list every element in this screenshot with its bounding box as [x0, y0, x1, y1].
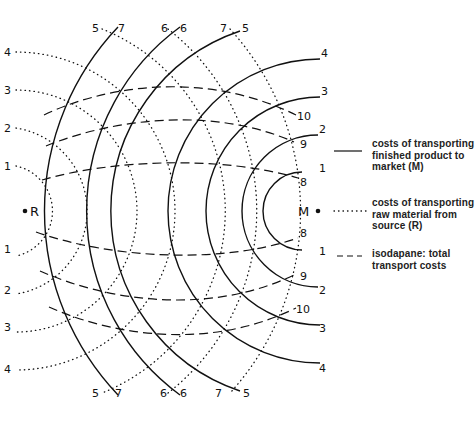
right-label-solid-bottom-2: 2	[319, 284, 326, 297]
solid-arc-1	[263, 172, 302, 250]
bottom-label-dotted-5: 5	[92, 387, 99, 400]
isodapane-9-top	[46, 120, 294, 146]
left-label-top-1: 1	[4, 160, 11, 173]
right-label-dashed-top-8: 8	[300, 176, 307, 189]
right-label-solid-bottom-4: 4	[319, 362, 326, 375]
top-label-solid-6: 6	[180, 22, 187, 35]
source-label: R	[30, 204, 39, 219]
right-label-dashed-top-10: 10	[297, 110, 311, 123]
legend-solid-text: costs of transporting finished product t…	[372, 138, 474, 173]
legend-dotted-text: costs of transporting raw material from …	[372, 197, 474, 232]
solid-arc-7	[44, 27, 118, 395]
right-label-solid-bottom-3: 3	[319, 322, 326, 335]
isodapane-10-top	[44, 87, 296, 115]
market-label: M	[298, 204, 309, 219]
isodapane-8-top	[42, 163, 298, 180]
left-label-bottom-3: 3	[4, 321, 11, 334]
source-point	[23, 209, 28, 214]
top-label-dotted-5: 5	[92, 22, 99, 35]
isodapane-10-bottom	[49, 307, 296, 335]
right-label-solid-bottom-1: 1	[319, 245, 326, 258]
isodapane-8-bottom	[36, 232, 298, 255]
legend-dashed-text: isodapane: total transport costs	[372, 248, 450, 271]
left-label-top-3: 3	[4, 84, 11, 97]
bottom-label-solid-6: 6	[180, 387, 187, 400]
dotted-arc-6	[168, 29, 257, 393]
product-cost-circles	[44, 27, 320, 395]
top-label-solid-7: 7	[118, 22, 125, 35]
isodapanes	[36, 87, 298, 335]
left-label-bottom-4: 4	[4, 363, 11, 376]
market-point	[316, 209, 321, 214]
solid-arc-6	[87, 27, 180, 395]
top-label-dotted-7: 7	[220, 22, 227, 35]
left-label-bottom-2: 2	[4, 284, 11, 297]
left-label-top-2: 2	[4, 122, 11, 135]
right-label-solid-top-2: 2	[319, 123, 326, 136]
isodapane-9-bottom	[40, 271, 294, 300]
right-label-solid-top-3: 3	[321, 85, 328, 98]
top-label-solid-5: 5	[242, 22, 249, 35]
right-label-dashed-top-9: 9	[300, 138, 307, 151]
solid-arc-5	[111, 31, 240, 391]
bottom-label-dotted-6: 6	[160, 387, 167, 400]
bottom-label-solid-7: 7	[115, 387, 122, 400]
left-label-bottom-1: 1	[4, 243, 11, 256]
right-label-dashed-bottom-10: 10	[296, 303, 310, 316]
right-label-solid-top-4: 4	[321, 47, 328, 60]
right-label-dashed-bottom-9: 9	[300, 270, 307, 283]
dotted-arc-7	[230, 29, 301, 393]
dotted-arc-5	[102, 29, 225, 393]
bottom-label-dotted-7: 7	[215, 387, 222, 400]
right-label-solid-top-1: 1	[319, 162, 326, 175]
dotted-arc-4	[16, 52, 175, 370]
top-label-dotted-6: 6	[161, 22, 168, 35]
left-label-top-4: 4	[4, 46, 11, 59]
right-label-dashed-bottom-8: 8	[300, 227, 307, 240]
raw-material-cost-circles	[16, 29, 301, 393]
bottom-label-solid-5: 5	[243, 387, 250, 400]
